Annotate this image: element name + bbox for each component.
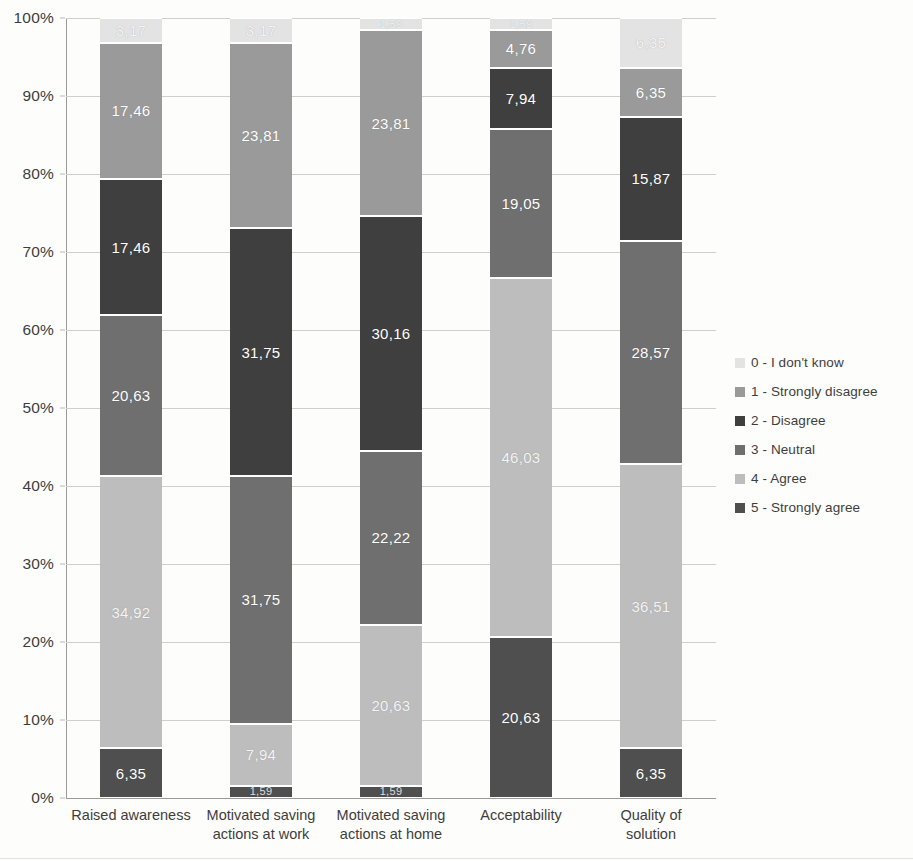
y-tick-label: 0% (31, 789, 54, 807)
scan-edge-artifact (0, 858, 913, 859)
bar-segment[interactable]: 15,87 (620, 117, 682, 241)
stacked-bar-chart: 0%10%20%30%40%50%60%70%80%90%100% 3,1717… (0, 0, 913, 861)
bar-segment-value-label: 6,35 (636, 85, 666, 100)
legend-swatch-icon (735, 358, 745, 368)
bar-segment-value-label: 20,63 (111, 388, 150, 403)
legend-item[interactable]: 3 - Neutral (735, 435, 910, 464)
legend-label: 2 - Disagree (751, 413, 826, 428)
y-tick-mark (60, 720, 65, 721)
bar-group[interactable]: 3,1723,8131,7531,757,941,59 (230, 18, 292, 798)
bar-group[interactable]: 6,356,3515,8728,5736,516,35 (620, 18, 682, 798)
bar-segment-value-label: 1,59 (250, 786, 273, 797)
bar-stack: 1,594,767,9419,0546,0320,63 (490, 18, 552, 798)
bar-segment-value-label: 23,81 (241, 128, 280, 143)
bar-segment[interactable]: 1,59 (360, 18, 422, 30)
x-axis-label: Raised awareness (66, 806, 196, 825)
y-tick-label: 10% (22, 711, 54, 729)
bar-segment-value-label: 6,35 (636, 35, 666, 50)
bar-segment[interactable]: 23,81 (360, 30, 422, 216)
y-tick-mark (60, 486, 65, 487)
y-tick-mark (60, 174, 65, 175)
x-axis-label-line: Quality of (586, 806, 716, 825)
bar-segment-value-label: 3,17 (246, 23, 276, 38)
bar-segment[interactable]: 46,03 (490, 278, 552, 637)
bar-segment-value-label: 20,63 (501, 710, 540, 725)
y-tick-mark (60, 96, 65, 97)
bar-stack: 6,356,3515,8728,5736,516,35 (620, 18, 682, 798)
bar-segment[interactable]: 17,46 (100, 179, 162, 315)
bar-segment-value-label: 19,05 (501, 196, 540, 211)
bar-segment[interactable]: 30,16 (360, 216, 422, 451)
bar-segment-value-label: 34,92 (111, 605, 150, 620)
legend-item[interactable]: 0 - I don't know (735, 348, 910, 377)
bar-segment-value-label: 1,59 (510, 19, 533, 30)
bar-segment[interactable]: 17,46 (100, 43, 162, 179)
bar-segment[interactable]: 28,57 (620, 241, 682, 464)
plot-area: 3,1717,4617,4620,6334,926,353,1723,8131,… (66, 18, 716, 798)
bar-segment[interactable]: 7,94 (490, 68, 552, 130)
bar-segment-value-label: 20,63 (371, 698, 410, 713)
bar-segment[interactable]: 4,76 (490, 30, 552, 67)
bar-segment[interactable]: 3,17 (230, 18, 292, 43)
bar-segment[interactable]: 1,59 (360, 786, 422, 798)
legend-item[interactable]: 4 - Agree (735, 464, 910, 493)
legend-item[interactable]: 2 - Disagree (735, 406, 910, 435)
y-tick-label: 90% (22, 87, 54, 105)
bar-segment[interactable]: 36,51 (620, 464, 682, 749)
bar-segment[interactable]: 6,35 (620, 748, 682, 798)
bar-segment-value-label: 6,35 (116, 766, 146, 781)
bar-segment[interactable]: 1,59 (490, 18, 552, 30)
bar-group[interactable]: 1,594,767,9419,0546,0320,63 (490, 18, 552, 798)
legend-label: 4 - Agree (751, 471, 807, 486)
bar-segment[interactable]: 6,35 (100, 748, 162, 798)
x-axis-label: Motivated savingactions at work (196, 806, 326, 844)
bar-segment[interactable]: 7,94 (230, 724, 292, 786)
y-tick-mark (60, 18, 65, 19)
bar-segment-value-label: 31,75 (241, 592, 280, 607)
bar-segment-value-label: 46,03 (501, 450, 540, 465)
x-axis-label: Motivated savingactions at home (326, 806, 456, 844)
bar-segment[interactable]: 23,81 (230, 43, 292, 229)
x-axis-label: Acceptability (456, 806, 586, 825)
bar-stack: 1,5923,8130,1622,2220,631,59 (360, 18, 422, 798)
bar-segment[interactable]: 31,75 (230, 228, 292, 476)
legend-item[interactable]: 5 - Strongly agree (735, 493, 910, 522)
bar-segment-value-label: 22,22 (371, 530, 410, 545)
bar-segment[interactable]: 22,22 (360, 451, 422, 624)
bar-segment[interactable]: 6,35 (620, 68, 682, 118)
y-tick-mark (60, 408, 65, 409)
bar-segment[interactable]: 3,17 (100, 18, 162, 43)
bar-segment-value-label: 7,94 (246, 747, 276, 762)
bar-segment-value-label: 7,94 (506, 91, 536, 106)
bar-segment[interactable]: 6,35 (620, 18, 682, 68)
bar-segment-value-label: 4,76 (506, 41, 536, 56)
bar-stack: 3,1717,4617,4620,6334,926,35 (100, 18, 162, 798)
x-axis: Raised awarenessMotivated savingactions … (66, 806, 716, 858)
legend-swatch-icon (735, 387, 745, 397)
bar-segment[interactable]: 20,63 (360, 625, 422, 786)
bar-segment[interactable]: 31,75 (230, 476, 292, 724)
bar-segment-value-label: 23,81 (371, 116, 410, 131)
bar-segment-value-label: 6,35 (636, 766, 666, 781)
bar-segment-value-label: 3,17 (116, 23, 146, 38)
bar-segment[interactable]: 20,63 (100, 315, 162, 476)
x-axis-label: Quality ofsolution (586, 806, 716, 844)
legend-item[interactable]: 1 - Strongly disagree (735, 377, 910, 406)
legend-swatch-icon (735, 445, 745, 455)
bar-segment[interactable]: 20,63 (490, 637, 552, 798)
y-tick-mark (60, 330, 65, 331)
bar-segment-value-label: 28,57 (631, 345, 670, 360)
bar-group[interactable]: 3,1717,4617,4620,6334,926,35 (100, 18, 162, 798)
legend-swatch-icon (735, 503, 745, 513)
y-tick-label: 70% (22, 243, 54, 261)
bar-group[interactable]: 1,5923,8130,1622,2220,631,59 (360, 18, 422, 798)
y-tick-mark (60, 564, 65, 565)
bar-segment[interactable]: 1,59 (230, 786, 292, 798)
x-axis-label-line: solution (586, 825, 716, 844)
bar-segment[interactable]: 19,05 (490, 129, 552, 278)
bar-segment-value-label: 17,46 (111, 240, 150, 255)
y-tick-label: 30% (22, 555, 54, 573)
x-axis-label-line: actions at work (196, 825, 326, 844)
bar-segment[interactable]: 34,92 (100, 476, 162, 748)
bar-segment-value-label: 31,75 (241, 345, 280, 360)
